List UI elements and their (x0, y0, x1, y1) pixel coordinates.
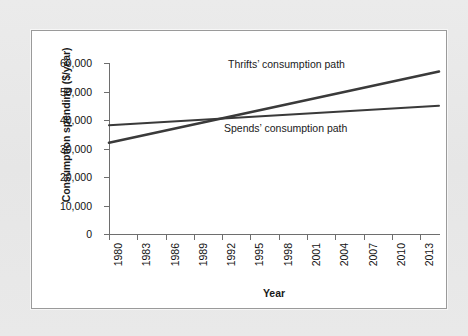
x-axis-tick (194, 235, 195, 240)
x-axis-tick-label: 1980 (113, 243, 124, 266)
x-axis-tick-label: 1983 (141, 243, 152, 266)
y-axis-tick-label: 40,000 (40, 115, 92, 126)
annotation-thrifts: Thrifts’ consumption path (228, 58, 345, 70)
plot-area: 1980198319861989199219951998200120042007… (109, 63, 439, 234)
x-axis-tick (222, 235, 223, 240)
x-axis-tick (364, 235, 365, 240)
x-axis-tick (109, 235, 110, 240)
x-axis-tick (137, 235, 138, 240)
x-axis-tick (392, 235, 393, 240)
y-axis-tick-label: 10,000 (40, 200, 92, 211)
x-axis-tick-label: 2007 (368, 243, 379, 266)
x-axis-tick-label: 2010 (396, 243, 407, 266)
y-axis-tick-labels: 60,00050,00040,00030,00020,00010,0000 (40, 31, 92, 308)
y-axis-tick-label: 30,000 (40, 143, 92, 154)
x-axis-tick-label: 2013 (424, 243, 435, 266)
series-lines (109, 63, 440, 235)
annotation-spends: Spends’ consumption path (224, 122, 347, 134)
figure-panel: Consumption spending ($/year) 60,00050,0… (31, 30, 447, 309)
x-axis-tick (420, 235, 421, 240)
x-axis-tick (166, 235, 167, 240)
y-axis-tick-label: 60,000 (40, 58, 92, 69)
x-axis-title: Year (109, 287, 439, 299)
y-axis-tick-label: 50,000 (40, 86, 92, 97)
y-axis-tick (104, 177, 109, 178)
x-axis-tick-label: 2001 (311, 243, 322, 266)
y-axis-tick (104, 206, 109, 207)
x-axis-tick-label: 1998 (283, 243, 294, 266)
x-axis-tick-label: 1992 (226, 243, 237, 266)
y-axis-tick-label: 20,000 (40, 172, 92, 183)
y-axis-tick (104, 120, 109, 121)
x-axis-tick-label: 1995 (254, 243, 265, 266)
line-chart: Consumption spending ($/year) 60,00050,0… (32, 31, 446, 308)
x-axis-tick-label: 1989 (198, 243, 209, 266)
x-axis-tick (307, 235, 308, 240)
x-axis-tick (335, 235, 336, 240)
y-axis-tick (104, 149, 109, 150)
x-axis-tick-label: 1986 (170, 243, 181, 266)
y-axis-tick (104, 92, 109, 93)
x-axis-tick (279, 235, 280, 240)
y-axis-tick (104, 63, 109, 64)
x-axis-tick (250, 235, 251, 240)
x-axis-tick-label: 2004 (339, 243, 350, 266)
y-axis-tick-label: 0 (40, 229, 92, 240)
